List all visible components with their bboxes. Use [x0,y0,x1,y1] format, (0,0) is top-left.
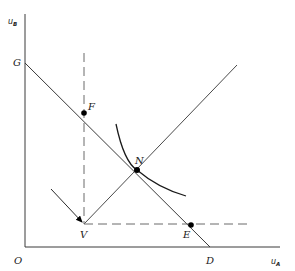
threat-point-arrow [51,189,82,222]
point-f-dot [81,110,87,116]
point-g-label: G [13,57,21,68]
point-n-dot [134,167,140,173]
origin-label: O [14,255,22,266]
point-d-label: D [205,255,214,266]
point-f-label: F [87,101,96,112]
point-n-label: N [134,155,145,166]
point-v-label: V [80,229,89,240]
point-e-label: E [182,229,191,240]
x-axis-label: uA [271,257,280,267]
utility-frontier-line [25,63,210,247]
utility-possibility-diagram: uB uA O G F N V E D [0,0,295,271]
point-e-dot [188,222,194,228]
indifference-curve [116,124,186,196]
y-axis-label: uB [8,17,17,27]
